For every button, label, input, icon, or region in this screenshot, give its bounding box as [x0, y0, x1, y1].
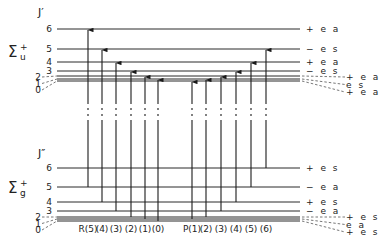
- upper-term-sup: +: [20, 42, 28, 52]
- lower-j-number: 6: [46, 163, 52, 173]
- branch-label-r: (2): [125, 224, 138, 234]
- lower-parity-leader-line: [302, 219, 345, 225]
- branch-label-p: P(1): [183, 224, 201, 234]
- lower-state-levels: [57, 168, 300, 221]
- upper-term-symbol: Σ: [8, 43, 17, 61]
- lower-term-sub: g: [20, 188, 26, 198]
- lower-parity-leader-line: [302, 221, 345, 232]
- lower-j-leader-line: [42, 221, 57, 230]
- upper-j-leader-line: [42, 76, 57, 77]
- lower-j-number: 5: [46, 182, 52, 192]
- lower-parity-label: − e a: [306, 206, 340, 216]
- lower-term-symbol: Σ: [8, 179, 17, 197]
- lower-j-number: 3: [46, 206, 52, 216]
- branch-label-p: (5): [245, 224, 258, 234]
- branch-label-r: (0): [152, 224, 165, 234]
- transition-arrows: [88, 30, 266, 221]
- upper-parity-label: − e s: [306, 44, 340, 54]
- lower-parity-label: − e a: [306, 182, 340, 192]
- upper-j-number: 6: [46, 24, 52, 34]
- lower-term-sup: +: [20, 178, 28, 188]
- upper-j-number: 3: [46, 66, 52, 76]
- upper-parity-leader-line: [302, 81, 345, 92]
- branch-label-r: (3): [110, 224, 123, 234]
- branch-label-r: (1): [139, 224, 152, 234]
- branch-label-p: (3): [215, 224, 228, 234]
- lower-j-leader-line: [42, 219, 57, 224]
- upper-parity-label: + e a: [346, 87, 380, 97]
- upper-j-number: 5: [46, 44, 52, 54]
- upper-j-leader-line: [42, 81, 57, 90]
- branch-label-p: (2): [200, 224, 213, 234]
- upper-parity-label: + e a: [306, 24, 340, 34]
- upper-parity-label: − e s: [306, 66, 340, 76]
- upper-term-sub: u: [20, 52, 26, 62]
- lower-parity-label: + e s: [346, 227, 380, 237]
- upper-parity-leader-line: [302, 76, 345, 77]
- branch-label-p: (4): [230, 224, 243, 234]
- upper-j-leader-line: [42, 79, 57, 84]
- upper-state-levels: [57, 29, 300, 81]
- branch-label-p: (6): [260, 224, 273, 234]
- upper-j-number: 0: [35, 85, 41, 95]
- upper-j-axis-label: J′: [37, 6, 44, 19]
- lower-j-axis-label: J″: [37, 147, 45, 160]
- rotational-energy-level-diagram: 6543210+ e a− e s+ e a− e s+ e ae s+ e a…: [0, 0, 380, 249]
- upper-parity-leader-line: [302, 79, 345, 85]
- lower-j-number: 0: [35, 225, 41, 235]
- branch-label-r: (4): [96, 224, 109, 234]
- lower-parity-label: + e s: [306, 163, 340, 173]
